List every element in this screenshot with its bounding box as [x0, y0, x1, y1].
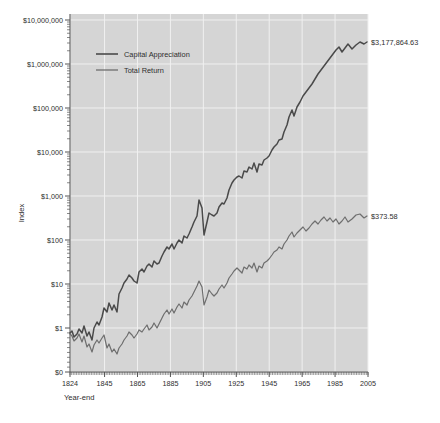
- chart-container: $10,000,000$1,000,000$100,000$10,000$1,0…: [0, 0, 440, 423]
- annotation-total-return-end-value: $373.58: [371, 212, 398, 221]
- x-axis-tick-label: 1965: [294, 379, 310, 388]
- x-axis-tick-label: 1845: [97, 379, 113, 388]
- x-axis-tick-label: 1865: [130, 379, 146, 388]
- y-axis-tick-label: $100,000: [33, 104, 63, 113]
- x-axis-tick-label: 1945: [261, 379, 277, 388]
- x-axis-tick-label: 1824: [62, 379, 78, 388]
- y-axis-tick-label: $10,000: [37, 148, 63, 157]
- x-axis-tick-label: 1925: [228, 379, 244, 388]
- x-axis-tick-label: 1885: [162, 379, 178, 388]
- legend-label-capital-appreciation: Capital Appreciation: [124, 50, 190, 59]
- legend-label-total-return: Total Return: [124, 66, 164, 75]
- x-axis-title: Year-end: [64, 393, 95, 402]
- x-axis-tick-label: 1905: [195, 379, 211, 388]
- annotation-capital-appreciation-end-value: $3,177,864.63: [371, 38, 418, 47]
- chart-svg: $10,000,000$1,000,000$100,000$10,000$1,0…: [0, 0, 440, 423]
- y-axis-tick-label: $1: [55, 324, 63, 333]
- y-axis-title: Index: [17, 204, 26, 223]
- y-axis-tick-label: $0: [55, 368, 63, 377]
- y-axis-tick-label: $1,000,000: [27, 60, 63, 69]
- y-axis-tick-label: $1,000: [41, 192, 63, 201]
- y-axis-tick-label: $100: [47, 236, 63, 245]
- x-axis-tick-label: 2005: [360, 379, 376, 388]
- x-axis-tick-label: 1985: [327, 379, 343, 388]
- y-axis-tick-label: $10,000,000: [23, 16, 63, 25]
- y-axis-tick-label: $10: [51, 280, 63, 289]
